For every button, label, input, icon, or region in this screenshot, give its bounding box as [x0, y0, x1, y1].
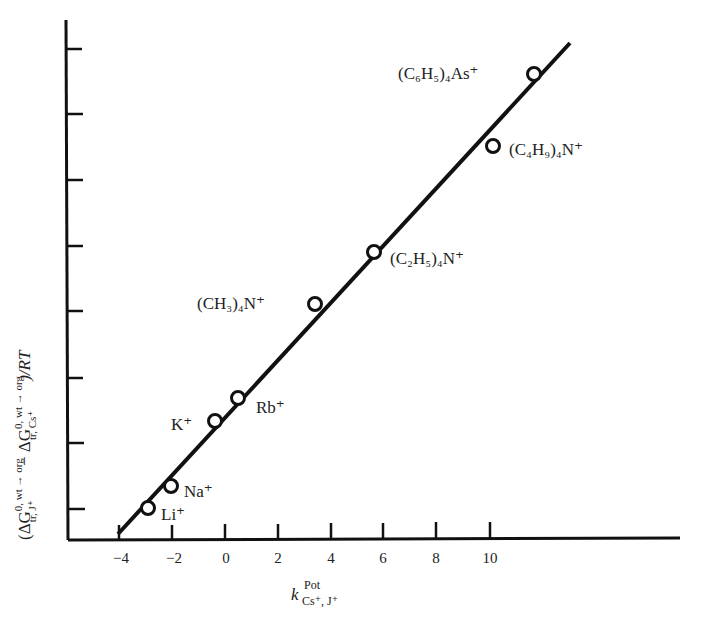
x-tick-label: 0 — [222, 550, 230, 566]
x-tick-label: 6 — [379, 550, 387, 566]
point-ph4as — [528, 68, 541, 81]
point-k — [209, 415, 222, 428]
label-k: K⁺ — [171, 415, 192, 434]
point-rb — [232, 392, 245, 405]
svg-text:Pot: Pot — [304, 578, 321, 592]
y-axis-title: (ΔG0, wt → orgtr, J⁺ − ΔG0, wt → orgtr, … — [12, 349, 38, 540]
x-axis-title: k Pot Cs⁺, J⁺ — [291, 578, 338, 608]
chart-canvas: −4 −2 0 2 4 6 8 10 k Pot Cs⁺, J⁺ (ΔG0, w… — [0, 0, 701, 624]
label-li: Li⁺ — [161, 505, 185, 524]
x-tick-label: 4 — [327, 550, 335, 566]
x-tick-label: −4 — [113, 550, 129, 566]
label-me4n: (CH₃)₄N⁺ — [197, 294, 265, 313]
label-et4n: (C₂H₅)₄N⁺ — [390, 249, 464, 268]
label-na: Na⁺ — [184, 482, 213, 501]
x-tick-label: −2 — [166, 550, 182, 566]
svg-text:Cs⁺, J⁺: Cs⁺, J⁺ — [302, 594, 338, 608]
point-labels: Li⁺ Na⁺ K⁺ Rb⁺ (CH₃)₄N⁺ (C₂H₅)₄N⁺ (C₄H₉)… — [161, 64, 583, 524]
fit-line — [118, 43, 570, 534]
point-et4n — [368, 246, 381, 259]
x-axis-line — [68, 538, 680, 540]
svg-text:k: k — [291, 585, 299, 604]
x-tick-label: 8 — [432, 550, 440, 566]
x-tick-labels: −4 −2 0 2 4 6 8 10 — [113, 550, 497, 566]
label-bu4n: (C₄H₉)₄N⁺ — [509, 140, 583, 159]
x-tick-label: 10 — [483, 550, 498, 566]
label-ph4as: (C₆H₅)₄As⁺ — [398, 64, 479, 83]
point-li — [142, 502, 155, 515]
x-tick-label: 2 — [274, 550, 282, 566]
axes — [66, 20, 680, 540]
label-rb: Rb⁺ — [256, 398, 285, 417]
point-me4n — [309, 298, 322, 311]
y-axis-line — [66, 20, 68, 540]
point-na — [165, 480, 178, 493]
point-bu4n — [487, 140, 500, 153]
x-ticks — [119, 522, 490, 539]
svg-text:(ΔG0, wt → orgtr, J⁺ − ΔG0, w: (ΔG0, wt → orgtr, J⁺ − ΔG0, wt → orgtr, … — [12, 349, 38, 540]
